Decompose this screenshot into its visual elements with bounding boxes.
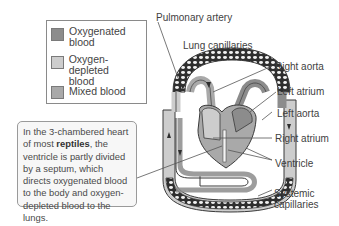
legend-item-oxygenated: Oxygenatedblood [51, 26, 126, 48]
label-lung-capillaries: Lung capillaries [183, 40, 253, 51]
label-systemic-capillaries: Systemiccapillaries [274, 188, 318, 210]
label-ventricle: Ventricle [275, 158, 313, 169]
label-left-aorta: Left aorta [277, 108, 319, 119]
label-right-aorta: Right aorta [275, 61, 324, 72]
label-left-atrium: Left atrium [277, 86, 324, 97]
septum [223, 130, 226, 162]
swatch-oxygen-depleted [51, 56, 64, 69]
swatch-oxygenated [51, 28, 64, 41]
legend: Oxygenatedblood Oxygen-depletedblood Mix… [46, 20, 147, 104]
swatch-mixed [51, 86, 64, 99]
heart [198, 105, 256, 168]
label-right-atrium: Right atrium [275, 133, 329, 144]
legend-item-mixed: Mixed blood [51, 84, 126, 99]
label-pulmonary-artery: Pulmonary artery [156, 12, 232, 23]
legend-item-oxygen-depleted: Oxygen-depletedblood [51, 54, 146, 87]
reptile-heart-callout: In the 3-chambered heart of most reptile… [17, 121, 137, 207]
right-atrium-shape [202, 108, 220, 140]
